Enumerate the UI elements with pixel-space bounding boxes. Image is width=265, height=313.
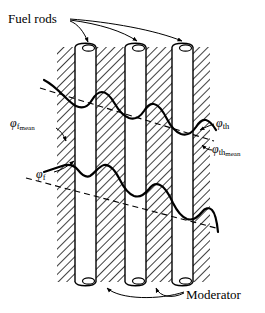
reactor-lattice-figure: Fuel rods Moderator φfmean φf φth φthmea… bbox=[0, 0, 265, 313]
phi-th-subscript: th bbox=[223, 121, 230, 131]
leader-to-rod-1 bbox=[70, 21, 88, 42]
fuel-rods-leaders bbox=[70, 19, 182, 42]
phi-glyph: φ bbox=[212, 142, 219, 156]
fuel-rod-group bbox=[75, 43, 193, 286]
phi-glyph: φ bbox=[10, 116, 17, 130]
phi-th-mean-label: φthmean bbox=[212, 143, 240, 158]
moderator-label: Moderator bbox=[186, 288, 241, 301]
phi-f-mean-label: φfmean bbox=[10, 117, 35, 132]
fuel-rod-2 bbox=[125, 43, 146, 286]
leader-to-rod-2 bbox=[70, 20, 137, 41]
moderator-leaders bbox=[107, 288, 184, 298]
phi-glyph: φ bbox=[216, 116, 223, 130]
phi-th-label: φth bbox=[216, 117, 229, 131]
fuel-rods-label: Fuel rods bbox=[8, 12, 57, 25]
fuel-rod-3 bbox=[172, 43, 193, 286]
fuel-rod-1 bbox=[75, 43, 96, 286]
phi-f-subscript: f bbox=[43, 172, 46, 182]
phi-f-mean-subscript: mean bbox=[19, 124, 34, 132]
phi-f-label: φf bbox=[36, 168, 45, 182]
phi-th-mean-subscript: mean bbox=[225, 150, 240, 158]
phi-glyph: φ bbox=[36, 167, 43, 181]
